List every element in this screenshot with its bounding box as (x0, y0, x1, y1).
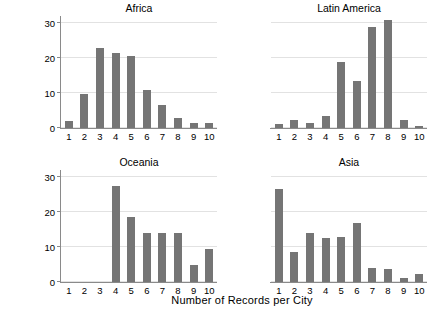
gridline (271, 57, 427, 58)
plot-area: 010203012345678910 (61, 170, 217, 282)
x-axis-tick-label: 7 (370, 286, 375, 296)
x-axis-tick-label: 10 (204, 286, 215, 296)
gridline (271, 246, 427, 247)
gridline (271, 176, 427, 177)
x-axis-tick-label: 1 (276, 132, 281, 142)
bar (127, 217, 135, 282)
gridline (271, 22, 427, 23)
plot-area: 010203012345678910 (61, 16, 217, 128)
x-axis-title: Number of Records per City (44, 294, 440, 306)
y-axis-tick (57, 22, 61, 23)
gridline (271, 92, 427, 93)
x-axis-tick-label: 2 (292, 286, 297, 296)
x-axis-line (270, 128, 427, 129)
bar (143, 90, 151, 129)
x-axis-tick-label: 6 (144, 286, 149, 296)
x-axis-tick-label: 1 (276, 286, 281, 296)
facet-panel-asia: Asia12345678910 (271, 156, 427, 282)
x-axis-tick-label: 3 (307, 132, 312, 142)
bar (306, 123, 314, 128)
x-axis-tick-label: 6 (354, 286, 359, 296)
histogram-facet-figure: Frequency Number of Records per City Afr… (0, 0, 444, 319)
x-axis-tick-label: 9 (401, 132, 406, 142)
bar (353, 81, 361, 128)
x-axis-tick-label: 1 (66, 286, 71, 296)
gridline (61, 246, 217, 247)
facet-panel-oceania: Oceania010203012345678910 (61, 156, 217, 282)
facet-title: Latin America (271, 2, 427, 14)
gridline (271, 211, 427, 212)
bar (322, 116, 330, 128)
bar (205, 249, 213, 282)
bar (353, 223, 361, 283)
bar (384, 20, 392, 129)
y-axis-tick (57, 246, 61, 247)
y-axis-tick-label: 30 (44, 18, 55, 28)
y-axis-tick-label: 0 (50, 123, 55, 133)
x-axis-tick-label: 5 (129, 286, 134, 296)
gridline (61, 22, 217, 23)
x-axis-tick-label: 6 (144, 132, 149, 142)
x-axis-tick-label: 7 (370, 132, 375, 142)
y-axis-tick-label: 10 (44, 88, 55, 98)
y-axis-tick (57, 176, 61, 177)
x-axis-tick-label: 4 (113, 132, 118, 142)
y-axis-tick-label: 30 (44, 172, 55, 182)
y-axis-tick (57, 211, 61, 212)
x-axis-tick-label: 5 (129, 132, 134, 142)
bar (368, 268, 376, 282)
bar (400, 278, 408, 282)
y-axis-tick-label: 10 (44, 242, 55, 252)
x-axis-tick-label: 3 (307, 286, 312, 296)
x-axis-tick-label: 2 (292, 132, 297, 142)
y-axis-line (60, 16, 61, 128)
x-axis-tick-label: 8 (175, 286, 180, 296)
x-axis-line (270, 282, 427, 283)
bar (368, 27, 376, 129)
facet-panel-latin-america: Latin America12345678910 (271, 2, 427, 128)
x-axis-tick-label: 7 (160, 132, 165, 142)
x-axis-tick-label: 10 (414, 132, 425, 142)
gridline (61, 176, 217, 177)
facet-title: Africa (61, 2, 217, 14)
bar (190, 123, 198, 128)
x-axis-tick-label: 8 (175, 132, 180, 142)
bar (112, 186, 120, 282)
facet-title: Asia (271, 156, 427, 168)
x-axis-tick-label: 10 (414, 286, 425, 296)
x-axis-tick-label: 3 (97, 132, 102, 142)
bar (275, 124, 283, 128)
bar (290, 252, 298, 282)
y-axis-tick-label: 0 (50, 277, 55, 287)
x-axis-tick-label: 9 (401, 286, 406, 296)
bar (384, 269, 392, 282)
x-axis-tick-label: 1 (66, 132, 71, 142)
x-axis-tick-label: 9 (191, 286, 196, 296)
y-axis-tick (57, 92, 61, 93)
facet-title: Oceania (61, 156, 217, 168)
x-axis-tick-label: 8 (385, 286, 390, 296)
x-axis-tick-label: 6 (354, 132, 359, 142)
x-axis-tick-label: 2 (82, 132, 87, 142)
x-axis-tick-label: 5 (339, 286, 344, 296)
x-axis-tick-label: 4 (323, 132, 328, 142)
bar (306, 233, 314, 282)
bar (337, 62, 345, 129)
bar (415, 274, 423, 282)
x-axis-tick-label: 5 (339, 132, 344, 142)
bar (290, 120, 298, 128)
bar (158, 233, 166, 282)
bar (415, 126, 423, 128)
gridline (61, 57, 217, 58)
bar (158, 105, 166, 128)
y-axis-tick-label: 20 (44, 53, 55, 63)
y-axis-tick-label: 20 (44, 207, 55, 217)
x-axis-tick-label: 9 (191, 132, 196, 142)
x-axis-tick-label: 3 (97, 286, 102, 296)
plot-area: 12345678910 (271, 170, 427, 282)
bar (112, 53, 120, 128)
x-axis-tick-label: 4 (323, 286, 328, 296)
bar (96, 48, 104, 129)
plot-area: 12345678910 (271, 16, 427, 128)
bar (174, 118, 182, 129)
